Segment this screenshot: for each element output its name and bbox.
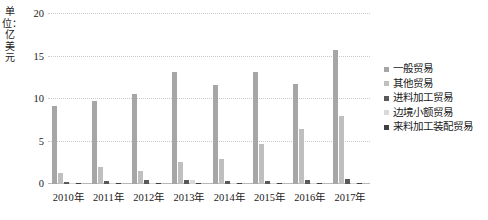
bar <box>253 72 258 184</box>
x-axis-tick-label: 2011年 <box>88 189 128 204</box>
bar <box>98 167 103 184</box>
bar <box>58 173 63 184</box>
bar-group <box>48 14 88 184</box>
bar <box>339 116 344 184</box>
bar <box>70 183 75 184</box>
chart-legend: 一般贸易其他贸易进料加工贸易边境小额贸易来料加工装配贸易 <box>384 62 488 135</box>
bar <box>116 183 121 184</box>
bar-group <box>88 14 128 184</box>
bar <box>333 50 338 184</box>
bar <box>311 183 316 184</box>
legend-item-label: 其他贸易 <box>393 78 433 90</box>
bar <box>277 183 282 184</box>
y-axis-tick-label: 0 <box>18 179 44 189</box>
legend-item[interactable]: 来料加工装配贸易 <box>384 120 488 135</box>
bar <box>299 129 304 184</box>
bar <box>219 159 224 185</box>
bar <box>196 183 201 184</box>
bar <box>156 183 161 184</box>
y-axis-tick-label: 20 <box>18 9 44 19</box>
bar-group <box>249 14 289 184</box>
legend-item[interactable]: 边境小额贸易 <box>384 106 488 121</box>
bar <box>150 183 155 184</box>
bar <box>259 144 264 184</box>
x-axis-tick-label: 2010年 <box>48 189 88 204</box>
bar <box>64 182 69 184</box>
bar <box>178 162 183 184</box>
bar <box>225 181 230 184</box>
bar <box>357 183 362 184</box>
legend-swatch-icon <box>384 81 389 86</box>
bar <box>184 180 189 184</box>
legend-item-label: 进料加工贸易 <box>393 92 453 104</box>
bar <box>237 183 242 184</box>
bar-group <box>129 14 169 184</box>
bar-group <box>290 14 330 184</box>
legend-item[interactable]: 进料加工贸易 <box>384 91 488 106</box>
x-axis-tick-label: 2017年 <box>330 189 370 204</box>
bar <box>305 180 310 184</box>
bar <box>231 183 236 184</box>
bar <box>351 183 356 184</box>
bar <box>345 179 350 184</box>
legend-swatch-icon <box>384 96 389 101</box>
bar <box>213 85 218 184</box>
bar <box>293 84 298 184</box>
bar <box>110 183 115 184</box>
x-axis-tick-label: 2013年 <box>169 189 209 204</box>
y-axis-tick-label: 15 <box>18 52 44 62</box>
y-axis-tick-label: 5 <box>18 137 44 147</box>
bar <box>76 183 81 184</box>
x-axis-tick-label: 2015年 <box>249 189 289 204</box>
bar <box>52 106 57 184</box>
legend-item[interactable]: 其他贸易 <box>384 77 488 92</box>
bar <box>92 101 97 184</box>
bar-group <box>209 14 249 184</box>
bar-chart: 单位：亿美元 05101520 2010年2011年2012年2013年2014… <box>0 0 488 220</box>
x-axis-tick-label: 2012年 <box>129 189 169 204</box>
bar <box>132 94 137 184</box>
plot-area <box>48 14 370 184</box>
bar <box>271 183 276 184</box>
bar <box>172 72 177 184</box>
bar <box>104 181 109 184</box>
y-axis-title: 单位：亿美元 <box>2 6 18 64</box>
bar <box>317 183 322 184</box>
bar-group <box>330 14 370 184</box>
x-axis-tick-label: 2014年 <box>209 189 249 204</box>
y-axis-tick-label: 10 <box>18 94 44 104</box>
legend-swatch-icon <box>384 110 389 115</box>
legend-item[interactable]: 一般贸易 <box>384 62 488 77</box>
x-axis-tick-label: 2016年 <box>290 189 330 204</box>
legend-item-label: 来料加工装配贸易 <box>393 121 473 133</box>
bar <box>265 181 270 184</box>
legend-swatch-icon <box>384 125 389 130</box>
legend-item-label: 一般贸易 <box>393 63 433 75</box>
legend-swatch-icon <box>384 67 389 72</box>
bar <box>190 180 195 184</box>
legend-item-label: 边境小额贸易 <box>393 107 453 119</box>
bar <box>138 171 143 184</box>
bar <box>144 180 149 184</box>
bar-group <box>169 14 209 184</box>
